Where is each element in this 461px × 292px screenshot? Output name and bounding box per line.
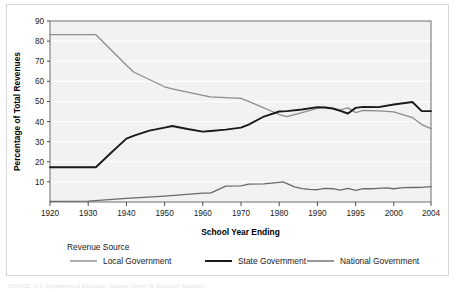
legend-label: State Government: [238, 256, 307, 266]
y-tick-label: 60: [35, 77, 45, 86]
y-tick-label: 90: [35, 17, 45, 26]
x-tick-label: 2004: [422, 209, 441, 218]
figure-frame: 1020304050607080901920193019401950196019…: [6, 4, 449, 276]
line-chart: 1020304050607080901920193019401950196019…: [7, 5, 450, 277]
x-tick-label: 1940: [117, 209, 136, 218]
x-tick-label: 1950: [155, 209, 174, 218]
y-tick-label: 70: [35, 57, 45, 66]
y-tick-label: 20: [35, 158, 45, 167]
source-note: SOURCE: U.S. Department of Education, Na…: [8, 283, 458, 291]
y-axis: 102030405060708090: [35, 17, 50, 187]
legend-label: National Government: [340, 256, 420, 266]
x-tick-label: 1980: [270, 209, 289, 218]
plot-area: [50, 21, 431, 202]
x-tick-label: 1995: [346, 209, 365, 218]
legend: Revenue SourceLocal GovernmentState Gove…: [67, 242, 420, 266]
x-tick-label: 1930: [79, 209, 98, 218]
x-tick-label: 1920: [41, 209, 60, 218]
y-tick-label: 50: [35, 97, 45, 106]
y-axis-title: Percentage of Total Revenues: [12, 52, 22, 171]
y-tick-label: 40: [35, 118, 45, 127]
y-tick-label: 80: [35, 37, 45, 46]
y-tick-label: 30: [35, 138, 45, 147]
legend-label: Local Government: [103, 256, 172, 266]
x-axis: 1920193019401950196019701980199019952000…: [41, 202, 441, 218]
x-tick-label: 1990: [308, 209, 327, 218]
y-tick-label: 10: [35, 178, 45, 187]
x-tick-label: 1970: [232, 209, 251, 218]
legend-heading: Revenue Source: [67, 242, 130, 252]
x-axis-title: School Year Ending: [201, 227, 280, 237]
x-tick-label: 1960: [194, 209, 213, 218]
x-tick-label: 2000: [385, 209, 404, 218]
